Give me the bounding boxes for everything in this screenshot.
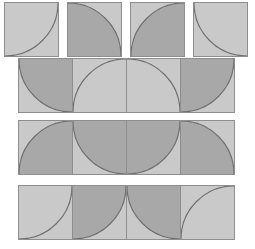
- tile-2-4: [180, 58, 235, 113]
- band-3: [18, 120, 235, 175]
- tile-2-3-quarter-circle-icon: [127, 59, 180, 112]
- tile-4-1-quarter-circle-icon: [19, 186, 72, 239]
- tile-3-1-quarter-circle-icon: [19, 121, 72, 174]
- tile-4-1: [18, 185, 73, 240]
- tile-4-4: [180, 185, 235, 240]
- tile-1-4-quarter-circle-icon: [194, 3, 247, 56]
- tile-1-4: [193, 2, 248, 57]
- tile-1-2-quarter-circle-icon: [68, 3, 121, 56]
- tile-3-3: [126, 120, 181, 175]
- band-2: [18, 58, 235, 113]
- tile-3-4-quarter-circle-icon: [181, 121, 234, 174]
- band-4: [18, 185, 235, 240]
- tile-1-3-quarter-circle-icon: [131, 3, 184, 56]
- tile-2-1: [18, 58, 73, 113]
- tile-3-3-quarter-circle-icon: [127, 121, 180, 174]
- band-1: [4, 2, 248, 57]
- tile-1-1: [4, 2, 59, 57]
- tiling-board: [0, 0, 255, 249]
- tile-4-2-quarter-circle-icon: [73, 186, 126, 239]
- tile-1-1-quarter-circle-icon: [5, 3, 58, 56]
- tile-2-3: [126, 58, 181, 113]
- tile-4-2: [72, 185, 127, 240]
- tile-4-3: [126, 185, 181, 240]
- tile-2-4-quarter-circle-icon: [181, 59, 234, 112]
- tile-3-2-quarter-circle-icon: [73, 121, 126, 174]
- tile-3-1: [18, 120, 73, 175]
- tile-2-1-quarter-circle-icon: [19, 59, 72, 112]
- tile-3-4: [180, 120, 235, 175]
- tile-3-2: [72, 120, 127, 175]
- tile-1-3: [130, 2, 185, 57]
- tile-4-3-quarter-circle-icon: [127, 186, 180, 239]
- tile-2-2: [72, 58, 127, 113]
- tile-1-2: [67, 2, 122, 57]
- tile-4-4-quarter-circle-icon: [181, 186, 234, 239]
- tile-2-2-quarter-circle-icon: [73, 59, 126, 112]
